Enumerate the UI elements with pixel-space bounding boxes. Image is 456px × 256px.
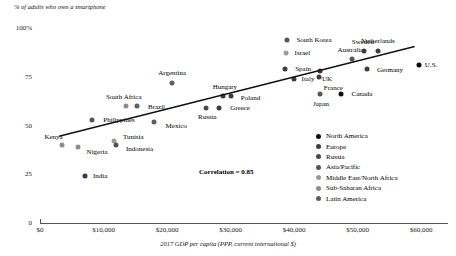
data-point	[283, 66, 288, 71]
data-point-label: Poland	[241, 94, 260, 102]
data-point	[204, 105, 209, 110]
data-point	[217, 105, 222, 110]
data-point-label: Argentina	[158, 69, 186, 77]
y-tick-label: 75	[2, 73, 32, 81]
x-tick-label: $60,000	[396, 226, 446, 234]
data-point-label: Nigeria	[87, 148, 108, 156]
data-point-label: UK	[322, 75, 332, 83]
legend-swatch-icon	[316, 186, 321, 191]
data-point	[285, 37, 290, 42]
legend-swatch-icon	[316, 165, 321, 170]
data-point	[123, 104, 128, 109]
legend-swatch-icon	[316, 154, 321, 159]
data-point	[350, 57, 355, 62]
legend-item-label: Europe	[326, 143, 346, 151]
data-point	[292, 76, 297, 81]
legend: North AmericaEuropeRussiaAsia/PacificMid…	[316, 131, 398, 204]
data-point-label: Tunisia	[123, 133, 144, 141]
data-point	[228, 94, 233, 99]
data-point-label: Indonesia	[126, 145, 153, 153]
x-tick-label: $10,000	[79, 226, 129, 234]
y-tick-label: 25	[2, 170, 32, 178]
data-point	[170, 80, 175, 85]
legend-item-label: Sub-Saharan Africa	[326, 184, 381, 192]
data-point	[90, 117, 95, 122]
data-point-label: Mexico	[166, 122, 187, 130]
data-point-label: Greece	[230, 104, 250, 112]
data-point-label: Australia	[338, 46, 364, 54]
legend-item: Asia/Pacific	[316, 162, 398, 172]
data-point-label: South Korea	[296, 36, 331, 44]
data-point-label: Germany	[377, 66, 403, 74]
legend-item: Russia	[316, 152, 398, 162]
data-point-label: France	[324, 84, 343, 92]
data-point	[284, 51, 289, 56]
scatter-chart: % of adults who own a smartphone KenyaNi…	[0, 0, 456, 256]
data-point-label: South Africa	[106, 93, 142, 101]
data-point	[220, 94, 225, 99]
correlation-annotation: Correlation = 0.85	[199, 168, 254, 176]
x-tick-label: $0	[15, 226, 65, 234]
data-point-label: Philippines	[103, 116, 135, 124]
data-point	[83, 174, 88, 179]
data-point-label: Brazil	[148, 103, 165, 111]
x-tick-label: $30,000	[206, 226, 256, 234]
data-point-label: Kenya	[44, 133, 62, 141]
legend-item-label: North America	[326, 132, 368, 140]
legend-item: Sub-Saharan Africa	[316, 183, 398, 193]
data-point	[361, 49, 366, 54]
data-point-label: Spain	[295, 65, 311, 73]
x-tick-label: $20,000	[142, 226, 192, 234]
x-axis-origin-tick	[40, 219, 41, 224]
legend-item-label: Latin America	[326, 195, 366, 203]
data-point-label: Russia	[198, 113, 217, 121]
legend-swatch-icon	[316, 196, 321, 201]
legend-swatch-icon	[316, 144, 321, 149]
data-point-label: Israel	[295, 49, 311, 57]
data-point-label: U.S.	[425, 61, 437, 69]
data-point-label: Canada	[351, 90, 372, 98]
data-point	[375, 49, 380, 54]
x-tick-label: $50,000	[333, 226, 383, 234]
data-point	[76, 144, 81, 149]
data-point	[318, 92, 323, 97]
x-axis-title: 2017 GDP per capita (PPP, current intern…	[160, 240, 296, 247]
data-point-label: Italy	[302, 75, 315, 83]
data-point	[317, 74, 322, 79]
data-point-label: Hungary	[213, 83, 238, 91]
data-point	[113, 143, 118, 148]
legend-swatch-icon	[316, 175, 321, 180]
data-point	[318, 68, 323, 73]
y-axis-title: % of adults who own a smartphone	[14, 3, 106, 10]
legend-swatch-icon	[316, 134, 321, 139]
legend-item: Europe	[316, 141, 398, 151]
data-point-label: India	[93, 172, 107, 180]
y-tick-label: 50	[2, 122, 32, 130]
legend-item-label: Russia	[326, 153, 345, 161]
x-axis-line	[40, 223, 448, 224]
data-point-label: Netherlands	[361, 37, 395, 45]
data-point-label: Japan	[313, 100, 329, 108]
legend-item: Latin America	[316, 193, 398, 203]
legend-item-label: Asia/Pacific	[326, 163, 360, 171]
legend-item: Middle East/North Africa	[316, 173, 398, 183]
legend-item: North America	[316, 131, 398, 141]
legend-item-label: Middle East/North Africa	[326, 174, 398, 182]
data-point	[152, 119, 157, 124]
data-point	[134, 104, 139, 109]
data-point	[365, 66, 370, 71]
y-tick-label: 100%	[2, 24, 32, 32]
data-point	[417, 63, 422, 68]
x-tick-label: $40,000	[269, 226, 319, 234]
data-point	[338, 92, 343, 97]
data-point	[59, 143, 64, 148]
